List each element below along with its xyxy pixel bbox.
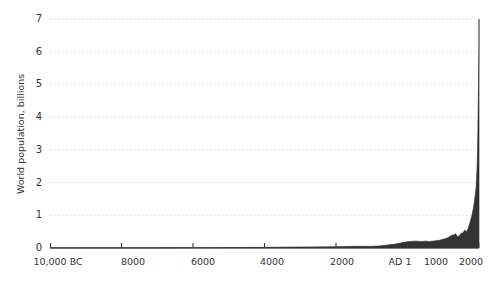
- y-tick-label-5: 5: [36, 78, 42, 89]
- x-axis-tick-labels: 10,000 BC 8000 6000 4000 2000 AD 1 1000 …: [33, 256, 483, 267]
- y-tick-label-1: 1: [36, 209, 42, 220]
- series-group: [50, 19, 479, 248]
- y-tick-label-2: 2: [36, 177, 42, 188]
- y-tick-label-3: 3: [36, 144, 42, 155]
- world-population-area: [50, 19, 479, 248]
- gridlines: [50, 19, 479, 215]
- x-tick-label-ad1: AD 1: [389, 256, 412, 267]
- world-population-chart: 7 6 5 4 3 2 1 0 10,000 BC 8000 6000: [0, 0, 492, 284]
- y-tick-label-6: 6: [36, 46, 42, 57]
- x-tick-label-6000: 6000: [191, 256, 215, 267]
- chart-container: 7 6 5 4 3 2 1 0 10,000 BC 8000 6000: [0, 0, 492, 284]
- x-tick-label-2000: 2000: [330, 256, 354, 267]
- y-axis-tick-labels: 7 6 5 4 3 2 1 0: [36, 13, 42, 253]
- x-tick-label-4000: 4000: [260, 256, 284, 267]
- y-tick-label-0: 0: [36, 242, 42, 253]
- x-tick-label-ad2000: 2000: [459, 256, 483, 267]
- y-tick-label-7: 7: [36, 13, 42, 24]
- x-tick-label-ad1000: 1000: [424, 256, 448, 267]
- y-axis-title: World population, billions: [15, 74, 26, 194]
- x-tick-label-10000bc: 10,000 BC: [33, 256, 83, 267]
- x-tick-label-8000: 8000: [121, 256, 145, 267]
- y-tick-label-4: 4: [36, 111, 42, 122]
